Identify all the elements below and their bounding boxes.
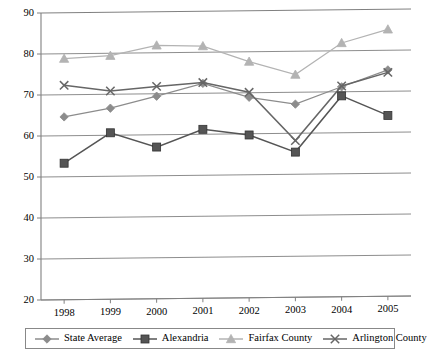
x-tick-label: 2001 [192, 305, 213, 316]
x-tick-label: 1998 [54, 307, 75, 318]
diamond-marker-icon [43, 334, 51, 342]
y-tick-label: 60 [24, 130, 35, 141]
square-marker-icon [106, 129, 114, 137]
grid-line [41, 91, 411, 95]
diamond-marker-icon [106, 104, 114, 112]
chart-legend: State AverageAlexandriaFairfax CountyArl… [25, 328, 395, 349]
square-marker-icon [245, 131, 253, 139]
y-tick-label: 90 [24, 7, 35, 18]
triangle-marker-icon [383, 25, 392, 33]
series-alexandria [60, 92, 392, 167]
x-tick-label: 2003 [285, 304, 306, 315]
legend-item-arlington-county[interactable]: Arlington County [322, 329, 426, 348]
x-axis-line [41, 296, 411, 300]
triangle-marker-icon [218, 333, 244, 345]
diamond-marker-icon [291, 100, 299, 108]
x-tick-label: 2002 [239, 305, 260, 316]
y-tick-label: 80 [24, 48, 35, 59]
x-axis [41, 296, 411, 304]
legend-item-state-average[interactable]: State Average [34, 329, 122, 348]
square-marker-icon [338, 92, 346, 100]
x-tick-label: 2000 [146, 306, 167, 317]
y-tick-labels: 2030405060708090 [24, 7, 35, 305]
x-tick-labels: 19981999200020012002200320042005 [54, 303, 399, 318]
grid-line [41, 255, 411, 259]
x-tick-label: 2004 [331, 304, 353, 315]
y-tick-label: 20 [24, 294, 35, 305]
grid-line [41, 173, 411, 177]
square-marker-icon [60, 159, 68, 167]
data-series-layer [60, 25, 393, 167]
x-tick-label: 2005 [377, 303, 398, 314]
legend-label: State Average [64, 333, 122, 344]
x-marker-icon [291, 136, 299, 144]
legend-label: Fairfax County [248, 333, 312, 344]
square-marker-icon [291, 148, 299, 156]
x-tick-label: 1999 [100, 306, 121, 317]
series-fairfax-county [60, 25, 393, 79]
y-tick-label: 50 [24, 171, 35, 182]
diamond-marker-icon [60, 113, 68, 121]
square-marker-icon [153, 143, 161, 151]
legend-item-alexandria[interactable]: Alexandria [132, 329, 209, 348]
y-tick-label: 30 [24, 253, 35, 264]
legend-label: Alexandria [162, 333, 209, 344]
legend-label: Arlington County [352, 333, 426, 344]
grid-lines [41, 9, 411, 300]
y-axis [37, 13, 41, 300]
x-marker-icon [322, 333, 348, 345]
grid-line [41, 214, 411, 218]
square-marker-icon [199, 125, 207, 133]
grid-line [41, 9, 411, 13]
legend-item-fairfax-county[interactable]: Fairfax County [218, 329, 312, 348]
square-marker-icon [384, 111, 392, 119]
square-marker-icon [132, 333, 158, 345]
diamond-marker-icon [34, 333, 60, 345]
square-marker-icon [141, 335, 149, 343]
y-tick-label: 40 [24, 212, 35, 223]
y-tick-label: 70 [24, 89, 35, 100]
